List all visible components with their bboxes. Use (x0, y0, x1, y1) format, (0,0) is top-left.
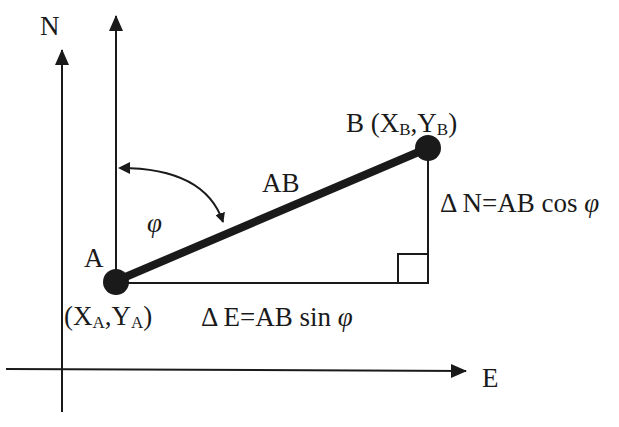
east-axis (6, 369, 466, 371)
angle-phi-label: φ (147, 210, 162, 237)
north-axis-label: N (40, 13, 60, 40)
delta-e-phi-symbol: φ (338, 302, 353, 332)
angle-arc-phi (120, 168, 223, 222)
delta-n-formula: Δ N=AB cos φ (440, 190, 599, 217)
point-b-label-prefix: B (X (346, 108, 399, 138)
east-axis-label: E (482, 365, 499, 392)
point-a-coord-sep: ,Y (105, 301, 131, 331)
point-a-coord-close: ) (143, 301, 152, 331)
point-a-y-subscript: A (131, 313, 143, 332)
delta-n-phi-symbol: φ (584, 188, 599, 218)
point-a-label: A (84, 245, 104, 272)
point-b-y-subscript: B (437, 120, 448, 139)
angle-arc-start-arrow-icon (118, 162, 130, 174)
point-b-label: B (XB,YB) (346, 110, 457, 137)
delta-n-formula-text: Δ N=AB cos (440, 188, 584, 218)
point-a (103, 269, 129, 295)
delta-e-formula: Δ E=AB sin φ (201, 304, 353, 331)
point-b-x-subscript: B (399, 120, 410, 139)
delta-e-formula-text: Δ E=AB sin (201, 302, 338, 332)
point-a-x-subscript: A (93, 313, 105, 332)
segment-ab-label: AB (262, 170, 300, 197)
point-b-coord-sep: ,Y (411, 108, 437, 138)
point-b-coord-close: ) (448, 108, 457, 138)
point-a-coord-open: (X (64, 301, 93, 331)
right-angle-marker (398, 254, 428, 284)
point-a-coordinates: (XA,YA) (64, 303, 152, 330)
